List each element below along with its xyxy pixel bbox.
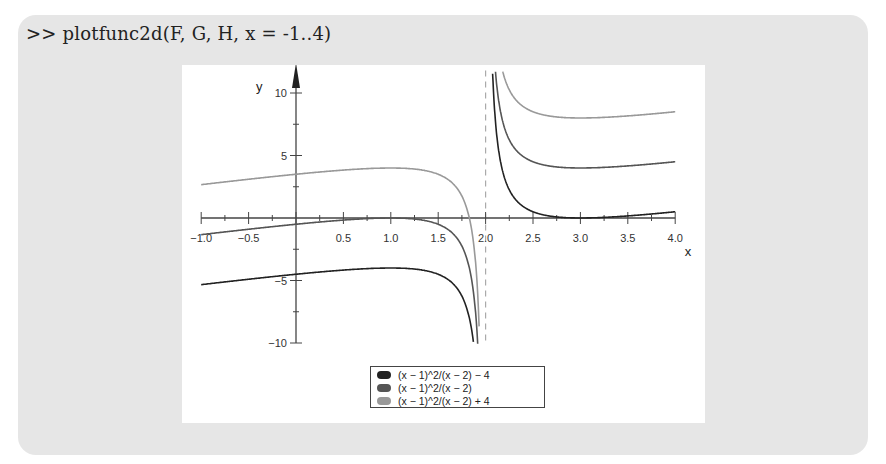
y-tick-label: 5 [281,150,287,162]
legend-swatch-icon [377,371,391,379]
legend-swatch-icon [377,384,391,392]
x-tick-label: 0.5 [336,232,351,244]
y-tick-label: −10 [268,337,287,349]
curve-right-branch [493,74,676,218]
x-tick-label: 1.5 [431,232,446,244]
legend-label: (x − 1)^2/(x − 2) − 4 [398,369,490,381]
x-axis-label: x [685,244,692,259]
y-axis-label: y [256,79,263,94]
curve-right-branch [496,72,676,168]
x-tick-label: 2.0 [478,232,493,244]
x-tick-label: 2.5 [525,232,540,244]
curve-left-branch [201,168,479,326]
x-tick-label: 3.5 [620,232,635,244]
plot-legend: (x − 1)^2/(x − 2) − 4 (x − 1)^2/(x − 2) … [370,366,545,408]
legend-label: (x − 1)^2/(x − 2) [398,382,472,394]
legend-label: (x − 1)^2/(x − 2) + 4 [398,395,490,407]
legend-item: (x − 1)^2/(x − 2) + 4 [377,394,544,407]
curve-left-branch [201,268,473,342]
x-tick-label: 4.0 [668,232,683,244]
x-tick-label: −0.5 [238,232,260,244]
x-tick-label: 1.0 [383,232,398,244]
x-tick-label: 3.0 [573,232,588,244]
y-axis-arrow-icon [292,65,300,88]
y-tick-label: 10 [275,87,287,99]
curve-right-branch [503,72,675,118]
legend-swatch-icon [377,397,391,405]
legend-item: (x − 1)^2/(x − 2) − 4 [377,368,544,381]
legend-item: (x − 1)^2/(x − 2) [377,381,544,394]
command-input-line[interactable]: >> plotfunc2d(F, G, H, x = -1..4) [26,23,331,44]
